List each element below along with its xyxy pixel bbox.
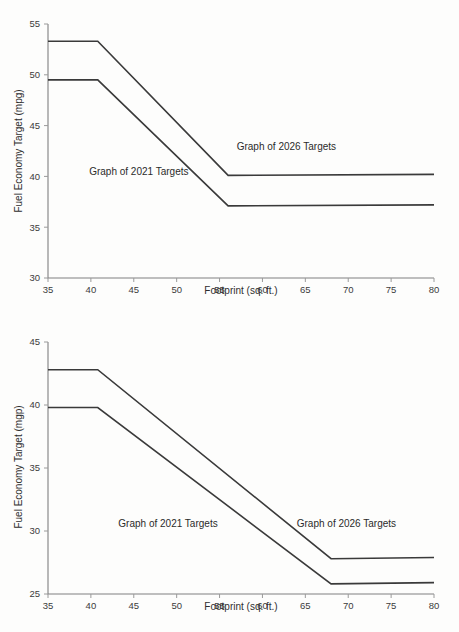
fuel-economy-2021-2026-top-chart: 30354045505535404550556065707580Footprin… [0,0,459,316]
y-axis-tick-label: 45 [29,336,40,347]
annotation-graph-of-2021-targets: Graph of 2021 Targets [118,518,217,529]
chart-page: 30354045505535404550556065707580Footprin… [0,0,459,632]
series-line-graph-of-2026-targets [48,370,434,559]
x-axis-tick-label: 75 [386,600,397,611]
x-axis-tick-label: 45 [128,284,139,295]
annotation-graph-of-2026-targets: Graph of 2026 Targets [237,141,336,152]
x-axis-tick-label: 50 [171,600,182,611]
y-axis-tick-label: 30 [29,525,40,536]
x-axis-tick-label: 80 [429,284,440,295]
y-axis-tick-label: 55 [29,18,40,29]
chart-top-panel: 30354045505535404550556065707580Footprin… [0,0,459,316]
fuel-economy-2021-2026-bottom-chart: 253035404535404550556065707580Footprint … [0,316,459,632]
x-axis-tick-label: 75 [386,284,397,295]
x-axis-tick-label: 35 [43,600,54,611]
x-axis-tick-label: 65 [300,600,311,611]
y-axis-tick-label: 40 [29,171,40,182]
chart-bottom-panel: 253035404535404550556065707580Footprint … [0,316,459,632]
y-axis-tick-label: 40 [29,399,40,410]
x-axis-title: Footprint (sq. ft.) [204,285,277,296]
series-line-graph-of-2026-targets [48,41,434,175]
x-axis-tick-label: 35 [43,284,54,295]
y-axis-tick-label: 35 [29,222,40,233]
x-axis-tick-label: 40 [86,600,97,611]
y-axis-tick-label: 30 [29,272,40,283]
chart-axes [48,342,434,594]
y-axis-tick-label: 25 [29,588,40,599]
annotation-graph-of-2021-targets: Graph of 2021 Targets [89,166,188,177]
x-axis-tick-label: 65 [300,284,311,295]
x-axis-tick-label: 45 [128,600,139,611]
x-axis-title: Footprint (sq. ft.) [204,601,277,612]
x-axis-tick-label: 70 [343,284,354,295]
annotation-graph-of-2026-targets: Graph of 2026 Targets [297,518,396,529]
y-axis-title: Fuel Economy Target (mgp) [13,405,24,528]
y-axis-tick-label: 50 [29,69,40,80]
x-axis-tick-label: 80 [429,600,440,611]
y-axis-title: Fuel Economy Target (mpg) [13,89,24,212]
x-axis-tick-label: 50 [171,284,182,295]
x-axis-tick-label: 40 [86,284,97,295]
y-axis-tick-label: 35 [29,462,40,473]
y-axis-tick-label: 45 [29,120,40,131]
x-axis-tick-label: 70 [343,600,354,611]
